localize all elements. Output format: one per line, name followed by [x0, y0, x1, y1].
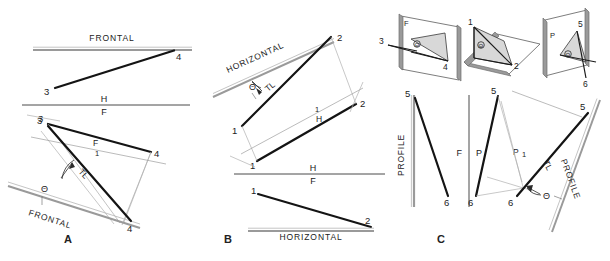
panel-c-profile-view: 5 6 P 1 PROFILE 5 6 TL Θ — [468, 85, 600, 232]
fold-label-f-c: F — [457, 148, 463, 158]
frontal-label-rot-a: FRONTAL — [27, 207, 73, 230]
theta-label-b: Θ — [249, 82, 256, 92]
pictorial-frontal-point-3: 3 — [379, 36, 384, 46]
pictorial-profile-point-5: 5 — [578, 19, 583, 29]
construction-left-b — [242, 126, 257, 161]
line-1-2-front-view — [258, 194, 371, 227]
point-3-aux: 3 — [37, 115, 42, 126]
panel-b-true-length-view: HORIZONTAL 1 2 TL Θ — [213, 32, 342, 136]
figure-canvas: FRONTAL 3 4 H F 3 4 F 1 — [0, 0, 610, 261]
theta-leader-a — [61, 163, 72, 178]
pictorial-profile-plane-label: P — [550, 31, 555, 40]
pictorial-profile-theta: Θ — [565, 52, 570, 58]
line-5-6-profile-view — [476, 96, 498, 196]
point-6-aux-c: 6 — [508, 197, 513, 208]
panel-a-fold-line: H F — [22, 94, 190, 117]
panel-b: HORIZONTAL 1 2 TL Θ 1 2 H 1 — [213, 32, 385, 245]
pictorial-frontal-point-4: 4 — [443, 62, 448, 72]
frontal-plane-edge-left — [399, 14, 403, 70]
reference-parallel-b — [241, 88, 363, 154]
tl-label-c: TL — [541, 158, 554, 172]
reference-parallel-c — [512, 91, 582, 117]
profile-plane-edge-right — [585, 8, 589, 67]
line-3-4-top-view — [55, 51, 174, 89]
profile-band-diagonal-edge-c — [549, 99, 597, 231]
construction-top-a — [27, 115, 60, 121]
frontal-band-rot-edge-a — [8, 182, 140, 224]
point-2-top: 2 — [360, 98, 365, 109]
pictorial-horizontal-point-2: 2 — [514, 61, 519, 71]
panel-c-front-view: PROFILE 5 6 — [396, 88, 449, 208]
theta-tick-b — [252, 93, 256, 99]
panel-a-f-marker: F — [93, 138, 98, 148]
panel-a-auxiliary-construction: F 1 — [27, 115, 166, 225]
fold-label-p-c: P — [476, 148, 482, 158]
pictorial-profile-point-6: 6 — [583, 79, 588, 89]
point-4-aux: 4 — [127, 223, 132, 234]
frontal-label-top: FRONTAL — [89, 33, 134, 43]
pictorial-profile: Θ P 5 6 — [543, 8, 596, 89]
technical-drawing: FRONTAL 3 4 H F 3 4 F 1 — [0, 0, 610, 261]
point-4-top: 4 — [176, 51, 181, 62]
fold-label-h-b: H — [310, 163, 317, 173]
pictorial-horizontal-point-1: 1 — [468, 17, 473, 27]
point-5-aux-c: 5 — [580, 101, 585, 112]
pictorial-frontal: Θ F 3 4 — [379, 14, 461, 81]
point-6-front-c: 6 — [444, 197, 449, 208]
point-5-front-c: 5 — [405, 88, 410, 99]
pictorial-horizontal: Θ 1 2 — [464, 17, 540, 76]
point-6-profile-c: 6 — [468, 197, 473, 208]
panel-label-a: A — [64, 233, 72, 245]
panel-b-fold-line: H F — [234, 163, 385, 186]
panel-a-top-view: FRONTAL 3 4 — [33, 33, 192, 97]
panel-c: Θ F 3 4 Θ 1 2 Θ — [379, 8, 600, 245]
horizontal-label-b: HORIZONTAL — [279, 232, 342, 242]
pictorial-frontal-theta: Θ — [414, 42, 419, 48]
construction-edge-right-a — [124, 152, 151, 222]
profile-band-diagonal-c — [552, 100, 600, 232]
point-3-top: 3 — [44, 86, 49, 97]
profile-label-left-c: PROFILE — [396, 134, 406, 176]
point-1-aux: 1 — [232, 125, 237, 136]
panel-a: FRONTAL 3 4 H F 3 4 F 1 — [8, 33, 192, 245]
construction-edge-left-a — [41, 131, 114, 224]
theta-label-c: Θ — [543, 191, 550, 201]
line-3-4-front-view — [48, 124, 151, 152]
panel-label-c: C — [437, 233, 445, 245]
panel-label-b: B — [224, 233, 232, 245]
panel-b-front-view: 1 2 HORIZONTAL — [248, 185, 374, 242]
construction-edge-c — [501, 101, 523, 187]
theta-label-a: Θ — [41, 184, 48, 194]
panel-b-h-marker: H — [316, 114, 322, 124]
fold-label-h-a: H — [101, 94, 108, 104]
point-1-front: 1 — [251, 185, 256, 196]
tl-label-b: TL — [263, 79, 277, 93]
panel-a-tick-marker: 1 — [95, 149, 99, 158]
line-1-2-top-view — [257, 104, 356, 161]
frontal-plane-edge-right — [457, 25, 461, 81]
fold-label-f-a: F — [101, 107, 107, 117]
point-2-aux: 2 — [337, 32, 342, 43]
line-5-6-front-view — [415, 98, 448, 196]
fold-label-f-b: F — [310, 176, 316, 186]
point-4-front: 4 — [154, 148, 159, 159]
pictorial-horizontal-theta: Θ — [478, 43, 483, 49]
point-2-front: 2 — [365, 215, 370, 226]
point-5-profile-c: 5 — [491, 85, 496, 96]
panel-c-tick-marker: 1 — [522, 150, 526, 159]
panel-a-true-length-view: FRONTAL 3 4 TL Θ — [8, 115, 140, 234]
pictorial-frontal-plane-label: F — [404, 19, 409, 28]
theta-arrowhead-b — [256, 88, 262, 95]
profile-plane-edge-left — [543, 18, 547, 78]
horizontal-label-rot-b: HORIZONTAL — [225, 40, 286, 75]
